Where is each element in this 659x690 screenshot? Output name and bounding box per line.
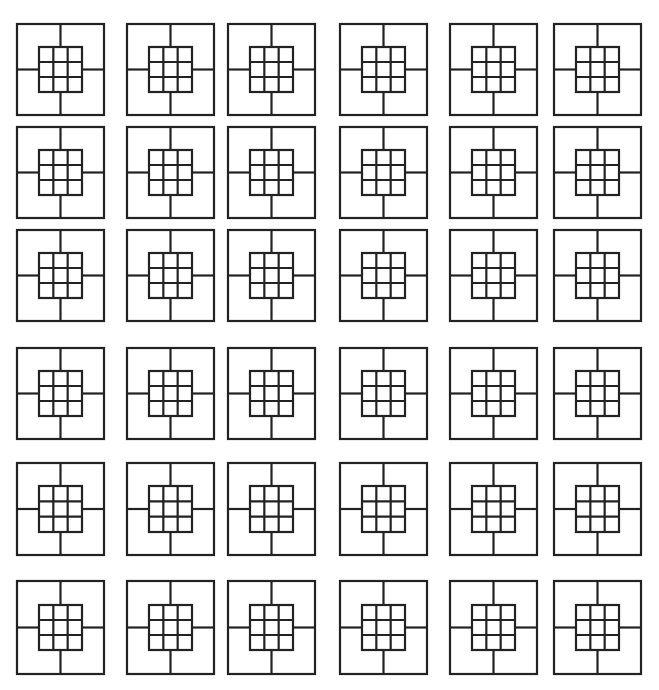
grid-tile-r3-c4 bbox=[339, 229, 428, 322]
grid-tile-r3-c1 bbox=[16, 229, 105, 322]
nested-grid-icon bbox=[126, 126, 215, 219]
grid-tile-r4-c5 bbox=[449, 347, 538, 440]
nested-grid-icon bbox=[339, 580, 428, 675]
nested-grid-icon bbox=[227, 462, 316, 556]
nested-grid-icon bbox=[16, 580, 105, 675]
nested-grid-icon bbox=[227, 347, 316, 440]
nested-grid-icon bbox=[126, 347, 215, 440]
grid-tile-r6-c5 bbox=[449, 580, 538, 675]
grid-tile-r6-c6 bbox=[553, 580, 642, 675]
nested-grid-icon bbox=[339, 126, 428, 219]
grid-tile-r1-c6 bbox=[553, 23, 642, 116]
grid-tile-r4-c4 bbox=[339, 347, 428, 440]
grid-tile-r6-c2 bbox=[126, 580, 215, 675]
grid-tile-r2-c3 bbox=[227, 126, 316, 219]
grid-tile-r1-c1 bbox=[16, 23, 105, 116]
grid-tile-r5-c5 bbox=[449, 462, 538, 556]
grid-tile-r1-c5 bbox=[449, 23, 538, 116]
nested-grid-icon bbox=[227, 580, 316, 675]
grid-tile-r1-c4 bbox=[339, 23, 428, 116]
grid-tile-r5-c4 bbox=[339, 462, 428, 556]
nested-grid-icon bbox=[339, 229, 428, 322]
grid-tile-r4-c6 bbox=[553, 347, 642, 440]
grid-tile-r2-c5 bbox=[449, 126, 538, 219]
grid-tile-r2-c1 bbox=[16, 126, 105, 219]
nested-grid-icon bbox=[553, 229, 642, 322]
nested-grid-icon bbox=[449, 580, 538, 675]
nested-grid-icon bbox=[16, 229, 105, 322]
grid-tile-r6-c3 bbox=[227, 580, 316, 675]
grid-tile-r2-c6 bbox=[553, 126, 642, 219]
grid-tile-r3-c3 bbox=[227, 229, 316, 322]
nested-grid-icon bbox=[449, 23, 538, 116]
grid-tile-r1-c3 bbox=[227, 23, 316, 116]
nested-grid-icon bbox=[553, 580, 642, 675]
nested-grid-icon bbox=[16, 126, 105, 219]
nested-grid-icon bbox=[126, 229, 215, 322]
grid-tile-r5-c1 bbox=[16, 462, 105, 556]
nested-grid-icon bbox=[449, 229, 538, 322]
nested-grid-icon bbox=[126, 580, 215, 675]
grid-tile-r1-c2 bbox=[126, 23, 215, 116]
grid-tile-r5-c6 bbox=[553, 462, 642, 556]
nested-grid-icon bbox=[227, 126, 316, 219]
nested-grid-icon bbox=[227, 229, 316, 322]
grid-tile-r4-c2 bbox=[126, 347, 215, 440]
nested-grid-icon bbox=[126, 462, 215, 556]
nested-grid-icon bbox=[553, 347, 642, 440]
nested-grid-icon bbox=[339, 347, 428, 440]
nested-grid-icon bbox=[553, 23, 642, 116]
grid-tile-r3-c5 bbox=[449, 229, 538, 322]
nested-grid-icon bbox=[339, 462, 428, 556]
grid-tile-r4-c1 bbox=[16, 347, 105, 440]
nested-grid-icon bbox=[449, 347, 538, 440]
grid-tile-r4-c3 bbox=[227, 347, 316, 440]
nested-grid-icon bbox=[553, 462, 642, 556]
grid-tile-r2-c4 bbox=[339, 126, 428, 219]
grid-tile-r2-c2 bbox=[126, 126, 215, 219]
nested-grid-icon bbox=[126, 23, 215, 116]
nested-grid-icon bbox=[16, 23, 105, 116]
nested-grid-icon bbox=[16, 347, 105, 440]
grid-tile-r6-c4 bbox=[339, 580, 428, 675]
grid-tile-r6-c1 bbox=[16, 580, 105, 675]
nested-grid-icon bbox=[449, 462, 538, 556]
grid-tile-r3-c2 bbox=[126, 229, 215, 322]
nested-grid-icon bbox=[227, 23, 316, 116]
nested-grid-icon bbox=[553, 126, 642, 219]
grid-tile-r5-c2 bbox=[126, 462, 215, 556]
grid-tile-r3-c6 bbox=[553, 229, 642, 322]
nested-grid-icon bbox=[16, 462, 105, 556]
nested-grid-icon bbox=[339, 23, 428, 116]
nested-grid-icon bbox=[449, 126, 538, 219]
grid-tile-r5-c3 bbox=[227, 462, 316, 556]
